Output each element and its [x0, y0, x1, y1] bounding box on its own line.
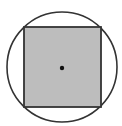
inscribed-square-diagram [0, 0, 122, 126]
center-point [60, 66, 64, 70]
